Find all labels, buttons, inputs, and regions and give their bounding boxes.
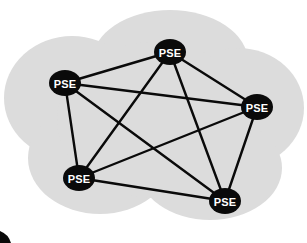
- node-pse-right[interactable]: PSE: [241, 94, 273, 120]
- node-label-pse-lower-left: PSE: [68, 173, 91, 185]
- network-graph-canvas: PSEPSEPSEPSEPSE: [0, 0, 307, 243]
- node-label-pse-top: PSE: [159, 47, 182, 59]
- network-diagram: PSEPSEPSEPSEPSE: [0, 0, 307, 243]
- node-label-pse-bottom-right: PSE: [214, 196, 237, 208]
- node-label-pse-right: PSE: [246, 102, 269, 114]
- corner-artifact-shape: [0, 231, 11, 243]
- node-pse-lower-left[interactable]: PSE: [63, 165, 95, 191]
- node-pse-top[interactable]: PSE: [154, 39, 186, 65]
- corner-artifact: [0, 231, 11, 243]
- node-label-pse-upper-left: PSE: [54, 78, 77, 90]
- node-pse-upper-left[interactable]: PSE: [49, 70, 81, 96]
- node-pse-bottom-right[interactable]: PSE: [209, 188, 241, 214]
